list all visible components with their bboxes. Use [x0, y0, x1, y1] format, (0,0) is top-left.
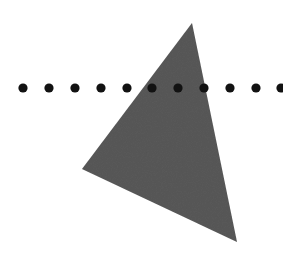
dotted-line — [18, 83, 283, 92]
dot-11 — [276, 83, 283, 92]
diagram-canvas — [0, 0, 283, 254]
dot-8 — [199, 83, 208, 92]
dot-6 — [147, 83, 156, 92]
dot-9 — [225, 83, 234, 92]
dot-5 — [122, 83, 131, 92]
dot-3 — [70, 83, 79, 92]
dot-1 — [18, 83, 27, 92]
dot-10 — [251, 83, 260, 92]
dot-7 — [173, 83, 182, 92]
dot-4 — [96, 83, 105, 92]
dot-2 — [44, 83, 53, 92]
gray-triangle-shape — [82, 23, 237, 242]
